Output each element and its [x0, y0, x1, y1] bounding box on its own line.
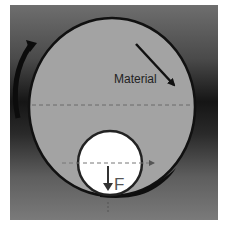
material-label: Material	[114, 72, 157, 86]
roll-diagram: F Material	[0, 0, 226, 232]
force-label: F	[114, 175, 124, 194]
